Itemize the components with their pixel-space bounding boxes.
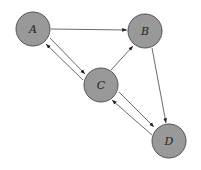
node-d-label: D xyxy=(164,135,174,148)
edge-a-c xyxy=(50,38,85,74)
edge-b-d xyxy=(152,48,166,123)
node-d: D xyxy=(152,124,186,158)
node-c-label: C xyxy=(97,79,106,92)
node-a: A xyxy=(16,12,50,46)
edge-c-b xyxy=(111,46,133,70)
edge-c-a xyxy=(46,44,83,80)
node-c: C xyxy=(84,68,118,102)
edge-a-b xyxy=(51,29,127,30)
node-a-label: A xyxy=(28,23,37,36)
graph-canvas: A B C D xyxy=(0,0,201,170)
node-b-label: B xyxy=(140,25,149,38)
node-b: B xyxy=(128,14,162,48)
